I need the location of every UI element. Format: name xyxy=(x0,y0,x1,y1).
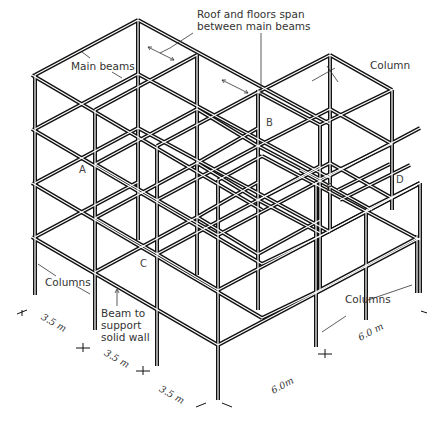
dim-tick-1 xyxy=(17,310,27,316)
frame-member-highlight xyxy=(258,200,320,233)
frame-members xyxy=(32,20,420,400)
column-label: Column xyxy=(370,59,410,71)
columns-right-leader-1 xyxy=(322,316,346,332)
frame-member-highlight xyxy=(157,200,218,235)
frame-member-highlight xyxy=(258,146,320,179)
dim-tick-6 xyxy=(421,311,427,313)
columns-left-leader-1 xyxy=(38,264,56,276)
frame-member-highlight xyxy=(197,128,258,163)
frame-member-highlight xyxy=(35,182,138,237)
frame-member-highlight xyxy=(35,74,138,129)
frame-member-highlight xyxy=(197,163,258,200)
span-double-arrow-2 xyxy=(222,80,248,93)
point-b: B xyxy=(266,117,273,128)
main-beams-leader-1 xyxy=(82,52,90,58)
frame-member-highlight xyxy=(95,109,197,164)
frame-member-highlight xyxy=(197,217,258,254)
frame-member-highlight xyxy=(197,109,258,146)
columns-left-label: Columns xyxy=(45,276,91,288)
main-beams-leader-2 xyxy=(112,72,122,78)
dim-tick-5 xyxy=(318,349,332,358)
frame-member-highlight xyxy=(157,254,218,290)
frame-member-highlight xyxy=(95,218,157,254)
point-d: D xyxy=(396,174,404,185)
frame-member-highlight xyxy=(258,55,330,92)
roof-floors-span-label: Roof and floors span between main beams xyxy=(197,8,311,32)
frame-member-highlight xyxy=(197,182,258,217)
point-e: E xyxy=(326,182,332,193)
frame-member-highlight xyxy=(330,109,392,144)
main-beams-label: Main beams xyxy=(71,60,135,72)
frame-member-highlight xyxy=(262,292,316,318)
span-double-arrow-1 xyxy=(148,47,174,60)
point-a: A xyxy=(79,164,86,175)
frame-member-highlight xyxy=(32,183,262,318)
columns-right-label: Columns xyxy=(345,293,391,305)
frame-member-highlight xyxy=(218,156,262,180)
point-c: C xyxy=(140,258,147,269)
frame-member-highlight xyxy=(35,128,138,183)
dim-tick-2 xyxy=(76,343,90,352)
frame-member-highlight xyxy=(262,238,316,264)
dim-tick-3 xyxy=(136,366,150,375)
beam-to-support-wall-label: Beam to support solid wall xyxy=(101,307,150,343)
dim-tick-4 xyxy=(196,403,232,407)
frame-member-highlight xyxy=(95,164,157,200)
